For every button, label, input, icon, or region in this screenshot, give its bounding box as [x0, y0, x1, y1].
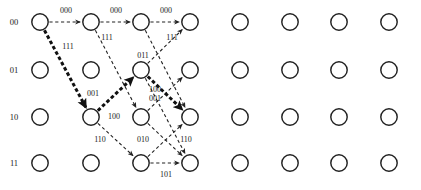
trellis-node-n10c0: [32, 109, 48, 125]
trellis-edge-001-6: [98, 77, 133, 110]
row-label-group: 00011011: [10, 17, 19, 168]
edge-label-111-4: 111: [101, 33, 112, 42]
row-label-10: 10: [10, 112, 19, 122]
trellis-node-n10c2: [133, 109, 149, 125]
trellis-node-n10c5: [282, 109, 298, 125]
row-label-11: 11: [10, 158, 18, 168]
trellis-node-n01c3: [182, 62, 198, 78]
trellis-node-n01c0: [32, 62, 48, 78]
edge-label-000-0: 000: [60, 6, 72, 15]
trellis-node-n11c4: [232, 155, 248, 171]
edge-label-001-7: 001: [87, 89, 99, 98]
trellis-node-n10c7: [381, 109, 397, 125]
edge-label-100-10: 100: [108, 112, 120, 121]
trellis-node-n10c4: [232, 109, 248, 125]
trellis-node-n01c6: [331, 62, 347, 78]
edge-label-110-11: 110: [94, 135, 106, 144]
trellis-node-n00c5: [282, 14, 298, 30]
trellis-node-n10c6: [331, 109, 347, 125]
trellis-edge-110-10: [148, 123, 182, 155]
trellis-node-n11c0: [32, 155, 48, 171]
edge-label-011-6: 011: [137, 51, 149, 60]
trellis-edge-100-12: [148, 124, 182, 156]
trellis-node-n11c3: [182, 155, 198, 171]
trellis-node-n11c2: [133, 155, 149, 171]
trellis-node-n11c6: [331, 155, 347, 171]
trellis-node-n01c1: [83, 62, 99, 78]
trellis-node-n00c0: [32, 14, 48, 30]
edge-label-group: 0000000001111111110110011000011001100101…: [60, 6, 192, 179]
edge-label-100-8: 100: [149, 85, 161, 94]
edge-label-000-2: 000: [160, 6, 172, 15]
trellis-node-n01c5: [282, 62, 298, 78]
trellis-node-n01c2: [133, 62, 149, 78]
trellis-node-n11c7: [381, 155, 397, 171]
edge-label-111-3: 111: [62, 42, 73, 51]
row-label-01: 01: [10, 65, 19, 75]
trellis-node-n10c1: [83, 109, 99, 125]
trellis-node-n11c1: [83, 155, 99, 171]
edge-label-111-5: 111: [166, 33, 177, 42]
edge-label-010-12: 010: [137, 135, 149, 144]
trellis-node-n00c7: [381, 14, 397, 30]
edge-label-001-9: 001: [149, 94, 161, 103]
edge-label-000-1: 000: [110, 6, 122, 15]
trellis-node-n10c3: [182, 109, 198, 125]
edge-label-110-13: 110: [180, 135, 192, 144]
trellis-diagram-canvas: 00011011 0000000001111111110110011000011…: [0, 0, 421, 190]
trellis-node-n00c3: [182, 14, 198, 30]
trellis-node-n01c4: [232, 62, 248, 78]
row-label-00: 00: [10, 17, 19, 27]
trellis-node-n00c1: [83, 14, 99, 30]
edge-label-101-14: 101: [160, 170, 172, 179]
trellis-node-n00c2: [133, 14, 149, 30]
trellis-svg: 00011011 0000000001111111110110011000011…: [0, 0, 421, 190]
trellis-node-n00c4: [232, 14, 248, 30]
trellis-node-n11c5: [282, 155, 298, 171]
trellis-node-n00c6: [331, 14, 347, 30]
trellis-node-n01c7: [381, 62, 397, 78]
